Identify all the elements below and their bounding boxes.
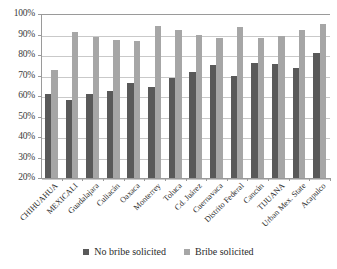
bar-bribe-solicited (299, 30, 305, 178)
x-axis-tick-mark (62, 178, 63, 181)
bar-group (169, 14, 182, 178)
bar-group (251, 14, 264, 178)
legend-swatch-icon (83, 249, 89, 255)
bar-group (313, 14, 326, 178)
x-axis-tick-mark (144, 178, 145, 181)
x-axis-tick-mark (82, 178, 83, 181)
bar-bribe-solicited (113, 40, 119, 178)
x-axis-tick-mark (289, 178, 290, 181)
bar-bribe-solicited (51, 70, 57, 178)
bar-group (210, 14, 223, 178)
bar-chart: 100%90%80%70%60%50%40%30%20% CHIHUAHUAME… (0, 0, 337, 269)
x-axis-labels: CHIHUAHUAMEXICALIGuadalajaraCuliacánOaxa… (0, 182, 337, 234)
bar-bribe-solicited (216, 38, 222, 178)
bar-group (127, 14, 140, 178)
x-axis-tick-mark (330, 178, 331, 181)
bars-layer (41, 14, 330, 178)
bar-group (293, 14, 306, 178)
bar-bribe-solicited (237, 27, 243, 178)
bar-bribe-solicited (72, 32, 78, 178)
bar-bribe-solicited (320, 24, 326, 178)
y-axis-tick-label: 90% (18, 30, 35, 40)
x-axis-tick-mark (268, 178, 269, 181)
x-axis-tick-mark (309, 178, 310, 181)
legend-swatch-icon (184, 249, 190, 255)
bar-group (107, 14, 120, 178)
x-axis-tick-mark (206, 178, 207, 181)
y-axis-tick-label: 60% (18, 91, 35, 101)
bar-bribe-solicited (134, 41, 140, 178)
legend-item[interactable]: Bribe solicited (184, 247, 254, 257)
y-axis-tick-label: 80% (18, 50, 35, 60)
bar-group (66, 14, 79, 178)
y-axis-tick-label: 70% (18, 71, 35, 81)
bar-bribe-solicited (258, 38, 264, 178)
x-axis-tick-mark (165, 178, 166, 181)
bar-bribe-solicited (155, 26, 161, 178)
bar-group (148, 14, 161, 178)
x-axis-tick-mark (124, 178, 125, 181)
bar-group (231, 14, 244, 178)
bar-group (45, 14, 58, 178)
bar-group (86, 14, 99, 178)
bar-bribe-solicited (93, 37, 99, 178)
legend-label: Bribe solicited (195, 247, 254, 257)
x-axis-tick-mark (103, 178, 104, 181)
legend-item[interactable]: No bribe solicited (83, 247, 166, 257)
chart-legend: No bribe solicitedBribe solicited (0, 243, 337, 261)
y-axis-tick-label: 40% (18, 132, 35, 142)
x-axis-tick-mark (186, 178, 187, 181)
legend-label: No bribe solicited (94, 247, 166, 257)
y-axis-tick-label: 100% (14, 9, 35, 19)
y-axis: 100%90%80%70%60%50%40%30%20% (0, 0, 38, 190)
bar-group (189, 14, 202, 178)
x-axis-tick-mark (247, 178, 248, 181)
x-axis-tick-mark (227, 178, 228, 181)
bar-bribe-solicited (196, 35, 202, 179)
bar-bribe-solicited (278, 36, 284, 178)
y-axis-tick-label: 50% (18, 112, 35, 122)
y-axis-tick-label: 30% (18, 153, 35, 163)
bar-bribe-solicited (175, 30, 181, 178)
bar-group (272, 14, 285, 178)
